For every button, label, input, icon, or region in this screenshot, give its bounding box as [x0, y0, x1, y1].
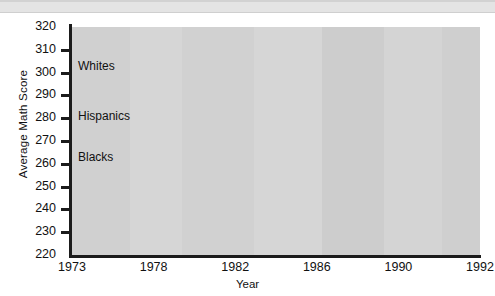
background-band — [254, 27, 322, 255]
y-tick-label-220: 220 — [0, 247, 56, 261]
background-band — [442, 27, 480, 255]
chart-figure: Average Math Score Whites Hispanics Blac… — [0, 0, 495, 296]
y-tick-label-310: 310 — [0, 42, 56, 56]
x-tick-label-1986: 1986 — [282, 260, 352, 274]
y-tick-label-300: 300 — [0, 65, 56, 79]
y-tick-label-290: 290 — [0, 87, 56, 101]
series-annotation-whites: Whites — [78, 59, 115, 73]
y-tick-label-320: 320 — [0, 19, 56, 33]
series-annotation-hispanics: Hispanics — [78, 109, 130, 123]
x-tick-label-1982: 1982 — [200, 260, 270, 274]
x-axis-title: Year — [0, 278, 495, 290]
background-band — [130, 27, 182, 255]
y-tick-310 — [61, 49, 72, 52]
y-tick-260 — [61, 163, 72, 166]
background-band — [322, 27, 384, 255]
x-tick-label-1990: 1990 — [363, 260, 433, 274]
y-tick-270 — [61, 140, 72, 143]
y-tick-label-260: 260 — [0, 156, 56, 170]
y-tick-250 — [61, 186, 72, 189]
y-tick-label-270: 270 — [0, 133, 56, 147]
y-tick-300 — [61, 72, 72, 75]
background-band — [384, 27, 442, 255]
background-band — [182, 27, 254, 255]
y-tick-280 — [61, 117, 72, 120]
y-tick-290 — [61, 94, 72, 97]
plot-area: Whites Hispanics Blacks — [72, 27, 480, 255]
x-tick-label-1973: 1973 — [37, 260, 107, 274]
y-tick-label-250: 250 — [0, 179, 56, 193]
y-tick-230 — [61, 231, 72, 234]
y-tick-240 — [61, 208, 72, 211]
series-annotation-blacks: Blacks — [78, 150, 113, 164]
y-tick-label-280: 280 — [0, 110, 56, 124]
y-tick-label-230: 230 — [0, 224, 56, 238]
x-axis-line — [69, 255, 481, 258]
x-tick-label-1992: 1992 — [445, 260, 495, 274]
x-tick-label-1978: 1978 — [119, 260, 189, 274]
y-tick-label-240: 240 — [0, 201, 56, 215]
